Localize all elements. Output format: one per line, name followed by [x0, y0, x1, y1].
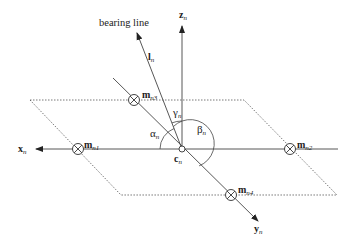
center-point: [179, 146, 185, 152]
m-n2-label: mn2: [297, 140, 312, 153]
m-n1-marker: [73, 144, 84, 155]
alpha-n-label: αn: [150, 128, 159, 142]
gamma-sub: n: [178, 112, 182, 120]
m1-sub: n1: [92, 144, 99, 152]
m-n3-label: mn3: [142, 90, 157, 103]
z-sub: n: [183, 14, 187, 22]
m2-sub: n2: [305, 144, 312, 152]
m3-sub: n3: [150, 94, 157, 102]
alpha-sub: n: [156, 133, 160, 141]
beta-n-label: βn: [197, 124, 206, 138]
x-sub: n: [23, 148, 27, 156]
beta-sub: n: [203, 129, 207, 137]
m4-sub: n4: [246, 189, 253, 197]
angle-arcs: [160, 120, 214, 166]
l-n-label: ln: [148, 52, 154, 65]
m-n1-label: mn1: [84, 140, 99, 153]
y-n-label: yn: [254, 224, 263, 237]
m-n2-marker: [285, 144, 296, 155]
bearing-line-label: bearing line: [99, 18, 149, 28]
x-n-label: xn: [18, 144, 27, 157]
gamma-n-label: γn: [173, 107, 181, 121]
m-n4-marker: [226, 190, 237, 201]
l-sub: n: [151, 56, 155, 64]
diagram-canvas: [0, 0, 352, 244]
m-n4-label: mn4: [238, 185, 253, 198]
z-n-label: zn: [179, 10, 187, 23]
c-sub: n: [178, 158, 182, 166]
m-n3-marker: [129, 95, 140, 106]
c-n-label: cn: [174, 154, 182, 167]
y-sub: n: [259, 228, 263, 236]
